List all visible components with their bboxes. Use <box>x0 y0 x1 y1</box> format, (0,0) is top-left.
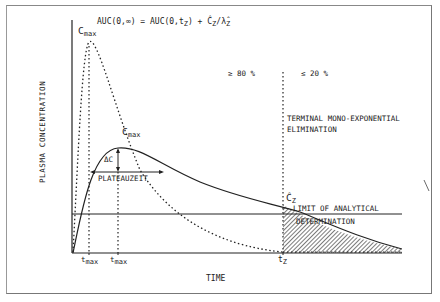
cmax-fast-label: Cmax <box>78 26 96 36</box>
tz-sub: Z <box>283 258 287 266</box>
eq-term1: AUC(0,t <box>150 17 184 26</box>
tmax-fast-sub: max <box>86 258 99 266</box>
terminal-line2: ELIMINATION <box>287 124 400 135</box>
delta-c-label: ΔC <box>104 156 113 164</box>
loq-label-line1: LIMIT OF ANALYTICAL <box>293 205 379 213</box>
cmax-slow-c: C <box>122 126 128 137</box>
tmax-fast-label: tmax <box>81 256 98 264</box>
terminal-line1: TERMINAL MONO-EXPONENTIAL <box>287 113 400 124</box>
eq-plus: + <box>198 17 203 26</box>
cmax-fast-c: C <box>78 25 84 36</box>
loq-label-line2: DETERMINATION <box>296 218 355 226</box>
eq-lhs: AUC(0,∞) <box>97 17 136 26</box>
terminal-elimination-label: TERMINAL MONO-EXPONENTIAL ELIMINATION <box>287 113 400 135</box>
plateauzeit-label: PLATEAUZEIT <box>98 175 148 183</box>
eq-equals: = <box>140 17 145 26</box>
cmax-slow-label: Cmax <box>122 127 140 137</box>
tmax-slow-label: tmax <box>110 256 127 264</box>
cmax-fast-sub: max <box>84 30 97 38</box>
pct-20-label: ≤ 20 % <box>301 70 328 78</box>
eq-term1-sub: Z <box>184 20 188 28</box>
tmax-slow-sub: max <box>115 258 128 266</box>
cz-c: Ĉ <box>286 192 292 203</box>
cmax-slow-sub: max <box>128 131 141 139</box>
cz-label: ĈZ <box>286 193 296 203</box>
y-axis-label: PLASMA CONCENTRATION <box>39 81 47 183</box>
stray-mark <box>424 180 429 191</box>
tz-label: tZ <box>278 256 287 264</box>
x-axis-label: TIME <box>206 275 225 283</box>
eq-lambda-sub: Z <box>226 20 230 28</box>
auc-equation: AUC(0,∞) = AUC(0,tZ) + ĈZ/λ̂Z <box>97 18 230 26</box>
pct-80-label: ≥ 80 % <box>228 70 255 78</box>
eq-term1-close: ) <box>188 17 193 26</box>
tmax-fast-t: t <box>81 255 86 264</box>
pk-diagram <box>0 0 440 302</box>
tmax-slow-t: t <box>110 255 115 264</box>
eq-c-sub: Z <box>212 20 216 28</box>
